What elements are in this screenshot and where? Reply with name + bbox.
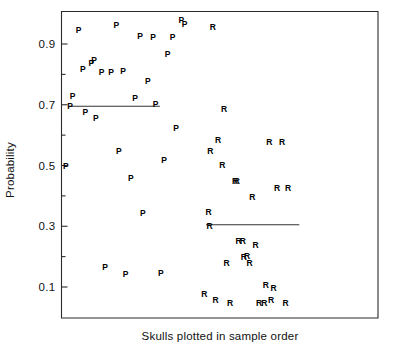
data-point-marker-P: P	[153, 99, 159, 109]
y-tick-label: 0.3	[39, 220, 56, 232]
data-point-marker-P: P	[120, 66, 126, 76]
data-point-marker-R: R	[201, 289, 207, 299]
data-point-marker-R: R	[263, 280, 269, 290]
data-point-marker-R: R	[215, 135, 221, 145]
data-point-marker-R: R	[279, 137, 285, 147]
y-tick-label: 0.5	[39, 160, 56, 172]
data-point-marker-R: R	[285, 183, 291, 193]
y-axis-label: Probability	[4, 142, 16, 198]
data-point-marker-R: R	[221, 104, 227, 114]
y-tick-label: 0.7	[39, 99, 56, 111]
data-point-marker-R: R	[219, 160, 225, 170]
data-point-marker-R: R	[283, 298, 289, 308]
data-point-marker-P: P	[170, 32, 176, 42]
data-point-marker-P: P	[123, 269, 129, 279]
data-point-marker-P: P	[113, 20, 119, 30]
data-point-marker-P: P	[116, 146, 122, 156]
data-point-marker-P: P	[91, 55, 97, 65]
data-point-marker-P: P	[99, 67, 105, 77]
data-point-marker-R: R	[253, 240, 259, 250]
data-point-marker-R: R	[249, 192, 255, 202]
data-point-marker-P: P	[182, 19, 188, 29]
data-point-marker-P: P	[70, 91, 76, 101]
data-point-marker-R: R	[212, 295, 218, 305]
data-point-marker-P: P	[76, 25, 82, 35]
data-point-marker-P: P	[83, 107, 89, 117]
data-point-marker-P: P	[102, 262, 108, 272]
data-point-marker-R: R	[227, 298, 233, 308]
tick-labels: 0.10.30.50.70.9	[39, 38, 56, 293]
data-point-marker-R: R	[207, 146, 213, 156]
data-point-marker-P: P	[145, 76, 151, 86]
data-point-marker-P: P	[150, 32, 156, 42]
x-axis-label: Skulls plotted in sample order	[142, 330, 299, 342]
data-point-marker-R: R	[274, 183, 280, 193]
data-point-marker-R: R	[271, 283, 277, 293]
data-point-marker-P: P	[80, 64, 86, 74]
data-point-marker-P: P	[93, 113, 99, 123]
data-point-marker-P: P	[132, 93, 138, 103]
data-point-marker-P: P	[128, 173, 134, 183]
data-point-marker-R: R	[206, 221, 212, 231]
data-point-marker-R: R	[240, 236, 246, 246]
data-point-marker-R: R	[261, 298, 267, 308]
plot-canvas: 0.10.30.50.70.9 PPPPPPPPPPPPPPPPPPPPPPPP…	[0, 0, 393, 352]
data-point-marker-R: R	[247, 258, 253, 268]
data-point-marker-R: R	[266, 137, 272, 147]
y-tick-label: 0.9	[39, 38, 56, 50]
series-R: RRRRRRRRRRRRRRRRRRRRRRRRRRRRRR	[201, 22, 291, 308]
data-point-marker-P: P	[108, 67, 114, 77]
data-point-marker-P: P	[137, 31, 143, 41]
y-tick-label: 0.1	[39, 281, 56, 293]
data-point-marker-P: P	[63, 161, 69, 171]
reference-lines	[69, 106, 299, 224]
data-point-marker-R: R	[210, 22, 216, 32]
data-point-marker-P: P	[161, 155, 167, 165]
series-P: PPPPPPPPPPPPPPPPPPPPPPPPPPPPPP	[63, 15, 188, 279]
data-point-marker-R: R	[268, 295, 274, 305]
data-point-marker-R: R	[234, 176, 240, 186]
data-point-marker-R: R	[206, 207, 212, 217]
data-point-marker-P: P	[173, 123, 179, 133]
scatter-plot-figure: 0.10.30.50.70.9 PPPPPPPPPPPPPPPPPPPPPPPP…	[0, 0, 393, 352]
data-point-marker-R: R	[224, 258, 230, 268]
data-point-marker-P: P	[165, 49, 171, 59]
data-point-marker-P: P	[67, 101, 73, 111]
data-points: PPPPPPPPPPPPPPPPPPPPPPPPPPPPPPRRRRRRRRRR…	[63, 15, 291, 307]
data-point-marker-P: P	[140, 208, 146, 218]
data-point-marker-P: P	[158, 268, 164, 278]
